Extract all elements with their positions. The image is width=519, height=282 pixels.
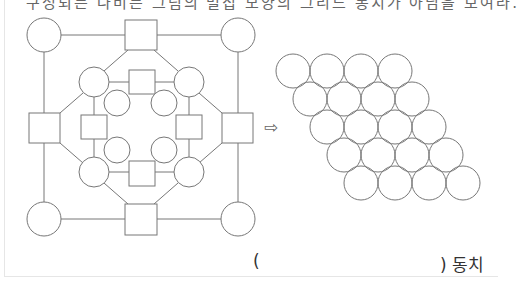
middle-ring	[79, 67, 204, 187]
middle-square-top	[129, 70, 155, 94]
answer-equivalence-label: ) 동치	[440, 251, 484, 276]
outer-ring	[27, 18, 255, 236]
middle-circle-tl	[79, 67, 109, 97]
outer-square-top	[125, 20, 157, 50]
middle-square-bottom	[129, 161, 155, 186]
middle-square-left	[81, 115, 107, 139]
inner-circle-br	[151, 137, 177, 163]
inner-circle-bl	[104, 137, 130, 163]
outer-square-right	[222, 113, 253, 143]
outer-circle-bl	[27, 202, 61, 236]
inner-circle-tl	[104, 90, 130, 116]
middle-circle-br	[174, 157, 204, 187]
answer-open-paren: (	[253, 251, 260, 271]
graph-edges	[44, 35, 238, 219]
outer-circle-br	[221, 202, 255, 236]
outer-circle-tr	[221, 18, 255, 52]
inner-circle-tr	[151, 90, 177, 116]
middle-circle-bl	[79, 157, 109, 187]
middle-circle-tr	[174, 67, 204, 97]
inner-ring	[104, 90, 177, 163]
right-arrow-icon: ⇨	[264, 117, 278, 137]
outer-circle-tl	[27, 18, 61, 52]
circle-packing	[276, 54, 480, 200]
middle-square-right	[176, 115, 202, 139]
outer-square-bottom	[125, 204, 157, 235]
outer-square-left	[29, 113, 60, 143]
